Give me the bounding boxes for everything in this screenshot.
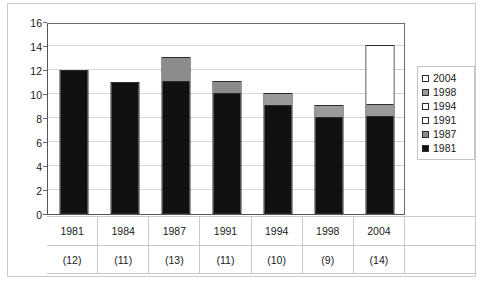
bar-segment-1981[interactable] [60,71,87,213]
stacked-bar[interactable] [366,45,395,214]
legend-swatch-icon [422,117,429,124]
stacked-bar[interactable] [110,82,139,214]
bar-slot [304,24,355,214]
bar-slot [48,24,99,214]
bar-segment-1981[interactable] [367,117,394,213]
x-axis-label-table: 1981198419871991199419982004 (12)(11)(13… [47,216,476,274]
bar-slot [253,24,304,214]
stacked-bar[interactable] [264,93,293,214]
bar-segment-1981[interactable] [111,83,138,213]
bar-segment-1981[interactable] [213,94,240,213]
x-axis-year-label: 1998 [303,216,354,245]
stacked-bar[interactable] [59,70,88,214]
legend-swatch-icon [422,89,429,96]
bar-segment-1981[interactable] [265,106,292,213]
legend-item-label: 1991 [433,115,456,125]
x-axis-count-row: (12)(11)(13)(11)(10)(9)(14) [47,245,476,274]
chart-legend: 200419981994199119871981 [417,66,475,160]
y-axis-tick-label: 14 [30,42,42,52]
y-axis-tick-label: 6 [36,138,42,148]
y-axis-tick-label: 10 [30,90,42,100]
legend-swatch-icon [422,131,429,138]
bar-slot [150,24,201,214]
chart-frame: 0246810121416 19811984198719911994199820… [7,3,476,277]
x-axis-count-label: (14) [354,245,405,274]
y-axis-tick-label: 8 [36,114,42,124]
y-axis-tick-label: 12 [30,66,42,76]
y-axis-tick-label: 0 [36,210,42,220]
legend-item-label: 1998 [433,87,456,97]
bar-segment-1998[interactable] [367,105,394,117]
x-axis-year-row: 1981198419871991199419982004 [47,216,476,245]
bar-segment-1981[interactable] [316,118,343,213]
legend-item-label: 1981 [433,143,456,153]
bar-slot [201,24,252,214]
stacked-bar[interactable] [161,57,190,214]
y-axis: 0246810121416 [16,23,47,215]
x-axis-year-label: 1994 [252,216,303,245]
bar-segment-1998[interactable] [316,106,343,118]
legend-item-1981[interactable]: 1981 [422,141,471,155]
x-axis-year-label: 2004 [354,216,405,245]
stacked-bar[interactable] [212,81,241,214]
stacked-bar[interactable] [315,105,344,214]
x-axis-count-label: (10) [252,245,303,274]
bar-segment-1998[interactable] [265,94,292,106]
bar-segment-2004[interactable] [367,46,394,105]
x-axis-count-label: (9) [303,245,354,274]
legend-item-label: 2004 [433,73,456,83]
legend-item-label: 1987 [433,129,456,139]
bar-segment-1987[interactable] [162,58,189,82]
legend-item-1998[interactable]: 1998 [422,85,471,99]
bar-slot [355,24,406,214]
legend-item-1994[interactable]: 1994 [422,99,471,113]
legend-item-1987[interactable]: 1987 [422,127,471,141]
legend-item-1991[interactable]: 1991 [422,113,471,127]
y-axis-tick-label: 16 [30,18,42,28]
legend-swatch-icon [422,145,429,152]
x-axis-count-label: (12) [47,245,98,274]
x-axis-spacer-cell [405,216,476,245]
plot-area [47,23,405,215]
bar-segment-1987[interactable] [213,82,240,94]
legend-swatch-icon [422,103,429,110]
legend-item-2004[interactable]: 2004 [422,71,471,85]
x-axis-count-label: (11) [98,245,149,274]
legend-item-label: 1994 [433,101,456,111]
legend-swatch-icon [422,75,429,82]
bar-segment-1981[interactable] [162,82,189,213]
y-axis-tick-label: 4 [36,162,42,172]
y-axis-tick-label: 2 [36,186,42,196]
x-axis-year-label: 1981 [47,216,98,245]
x-axis-year-label: 1991 [200,216,251,245]
x-axis-count-label: (11) [200,245,251,274]
bar-slot [99,24,150,214]
x-axis-year-label: 1984 [98,216,149,245]
x-axis-spacer-cell [405,245,476,274]
x-axis-count-label: (13) [149,245,200,274]
x-axis-year-label: 1987 [149,216,200,245]
